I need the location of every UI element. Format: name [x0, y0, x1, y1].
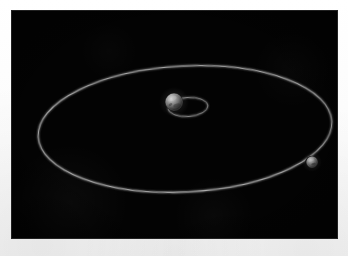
orbital-simulation-viewport[interactable] [11, 10, 338, 239]
central-body[interactable] [159, 87, 189, 117]
orbit-scene [11, 10, 338, 239]
satellite-body[interactable] [302, 152, 322, 172]
outer-orbit-path [35, 58, 335, 199]
